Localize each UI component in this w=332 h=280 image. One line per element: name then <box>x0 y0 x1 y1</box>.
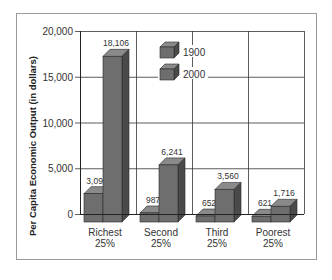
bar-value-label: 987 <box>146 195 160 205</box>
y-tick-label: 15,000 <box>42 72 73 83</box>
y-tick-label: 20,000 <box>42 26 73 37</box>
bar-value-label: 652 <box>202 198 216 208</box>
bar-value-label: 1,716 <box>273 188 295 198</box>
x-tick-label: Second <box>144 227 178 238</box>
x-tick-label: Richest <box>88 227 122 238</box>
x-tick-label: 25% <box>95 238 115 249</box>
y-tick-label: 5,000 <box>48 163 73 174</box>
legend-label: 2000 <box>183 69 206 80</box>
x-tick-label: 25% <box>151 238 171 249</box>
bar: 1,716 <box>271 188 297 222</box>
y-tick-label: 10,000 <box>42 118 73 129</box>
x-tick-label: 25% <box>207 238 227 249</box>
x-tick-label: Poorest <box>256 227 291 238</box>
y-tick-label: 0 <box>67 209 73 220</box>
bar-value-label: 621 <box>258 198 272 208</box>
x-tick-label: 25% <box>263 238 283 249</box>
bar-value-label: 18,106 <box>103 38 129 48</box>
x-tick-label: Third <box>206 227 229 238</box>
chart: 3,09818,1069876,2416523,5606211,716 05,0… <box>0 0 332 280</box>
y-axis-label: Per Capita Economic Output (in dollars) <box>27 56 38 236</box>
bar: 18,106 <box>103 38 129 222</box>
bar-value-label: 6,241 <box>161 147 183 157</box>
bar-value-label: 3,560 <box>217 171 239 181</box>
legend-label: 1900 <box>183 47 206 58</box>
